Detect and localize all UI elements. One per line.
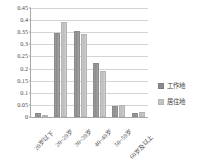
x-axis-tick-label-text: 60岁及以上 xyxy=(129,134,155,160)
bar-work[interactable] xyxy=(74,31,80,117)
bar-work[interactable] xyxy=(93,63,99,117)
bar-work[interactable] xyxy=(112,106,118,117)
bar-group xyxy=(129,8,148,117)
y-axis-tick-mark xyxy=(29,56,31,57)
y-axis-tick-mark xyxy=(29,104,31,105)
legend-swatch-icon xyxy=(158,99,164,105)
bar-group xyxy=(32,8,51,117)
y-axis-tick-mark xyxy=(29,80,31,81)
y-axis-tick-mark xyxy=(29,92,31,93)
y-axis-tick-mark xyxy=(29,20,31,21)
y-axis-tick-mark xyxy=(29,8,31,9)
bar-home[interactable] xyxy=(139,112,145,117)
x-axis-label-slot: 50~59岁 xyxy=(110,119,130,164)
bar-group xyxy=(71,8,90,117)
bar-group xyxy=(109,8,128,117)
y-axis-tick-mark xyxy=(29,117,31,118)
bar-home[interactable] xyxy=(61,22,67,117)
x-axis-label-slot: 60岁及以上 xyxy=(129,119,149,164)
bar-home[interactable] xyxy=(42,115,48,117)
x-axis-label-slot: 40~49岁 xyxy=(90,119,110,164)
x-axis-label-slot: 20岁以下 xyxy=(31,119,51,164)
y-axis-tick-mark xyxy=(29,68,31,69)
bar-group xyxy=(90,8,109,117)
x-axis-label-slot: 30~39岁 xyxy=(70,119,90,164)
bar-work[interactable] xyxy=(132,113,138,117)
legend-item-label: 居住地 xyxy=(167,99,185,105)
legend-item-home[interactable]: 居住地 xyxy=(158,94,204,110)
y-axis-tick-mark xyxy=(29,32,31,33)
bar-home[interactable] xyxy=(100,71,106,117)
plot-area: 0.45 0.4 0.35 0.3 0.25 0.2 0.15 0.1 0.05… xyxy=(30,8,148,118)
legend-item-label: 工作地 xyxy=(167,83,185,89)
x-axis-tick-label: 60岁及以上 xyxy=(146,120,172,146)
bars-layer xyxy=(32,8,148,117)
legend: 工作地 居住地 xyxy=(158,78,204,110)
bar-home[interactable] xyxy=(119,105,125,117)
legend-item-work[interactable]: 工作地 xyxy=(158,78,204,94)
bar-work[interactable] xyxy=(35,113,41,117)
bar-home[interactable] xyxy=(81,34,87,117)
bar-chart: 0.45 0.4 0.35 0.3 0.25 0.2 0.15 0.1 0.05… xyxy=(0,0,204,164)
bar-group xyxy=(51,8,70,117)
bar-work[interactable] xyxy=(54,33,60,117)
y-axis-tick-mark xyxy=(29,44,31,45)
x-axis-labels: 20岁以下20~29岁30~39岁40~49岁50~59岁60岁及以上 xyxy=(31,119,149,164)
x-axis-label-slot: 20~29岁 xyxy=(51,119,71,164)
legend-swatch-icon xyxy=(158,83,164,89)
